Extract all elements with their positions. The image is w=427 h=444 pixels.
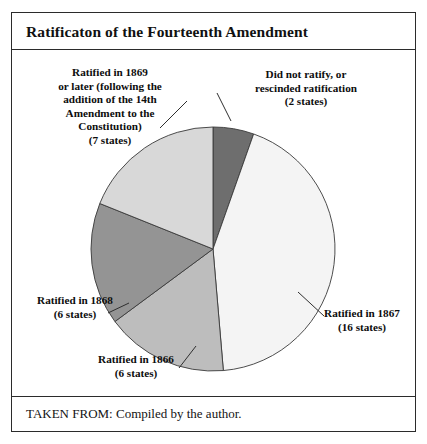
pie-chart: Ratified in 1869 or later (following the… xyxy=(12,49,415,397)
page-title: Ratificaton of the Fourteenth Amendment xyxy=(26,23,308,41)
source-note: TAKEN FROM: Compiled by the author. xyxy=(26,406,242,422)
pie-label-ratified-1866: Ratified in 1866 (6 states) xyxy=(74,353,198,380)
pie-label-not-ratified: Did not ratify, or rescinded ratificatio… xyxy=(226,68,386,109)
footer-divider xyxy=(12,396,415,397)
pie-label-ratified-1869: Ratified in 1869 or later (following the… xyxy=(26,66,194,147)
figure-panel: Ratificaton of the Fourteenth Amendment … xyxy=(11,12,416,432)
pie-slices xyxy=(91,127,335,371)
pie-label-ratified-1867: Ratified in 1867 (16 states) xyxy=(308,307,416,334)
pie-label-ratified-1868: Ratified in 1868 (6 states) xyxy=(14,294,136,321)
